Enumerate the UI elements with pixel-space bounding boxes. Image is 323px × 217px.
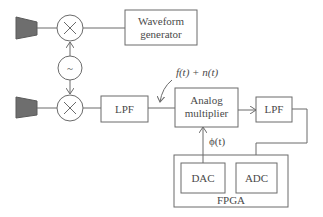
adc-label: ADC	[245, 172, 268, 184]
analog-multiplier-label-2: multiplier	[185, 107, 229, 119]
oscillator-symbol: ~	[67, 62, 73, 74]
reference-signal-label: ϕ(t)	[209, 135, 226, 148]
analog-multiplier-label-1: Analog	[190, 94, 223, 106]
fpga-label: FPGA	[217, 194, 245, 206]
waveform-generator-label-2: generator	[140, 28, 182, 40]
bottom-horn-antenna-icon	[16, 97, 37, 118]
lpf2-label: LPF	[265, 103, 284, 115]
block-diagram: Waveform generator ~ LPF f(t) + n(t) Ana…	[0, 0, 323, 217]
dac-label: DAC	[191, 172, 214, 184]
top-horn-antenna-icon	[16, 17, 37, 39]
lpf1-label: LPF	[115, 103, 134, 115]
input-signal-label: f(t) + n(t)	[176, 66, 219, 79]
waveform-generator-label-1: Waveform	[138, 15, 185, 27]
input-signal-arrow	[160, 80, 172, 102]
